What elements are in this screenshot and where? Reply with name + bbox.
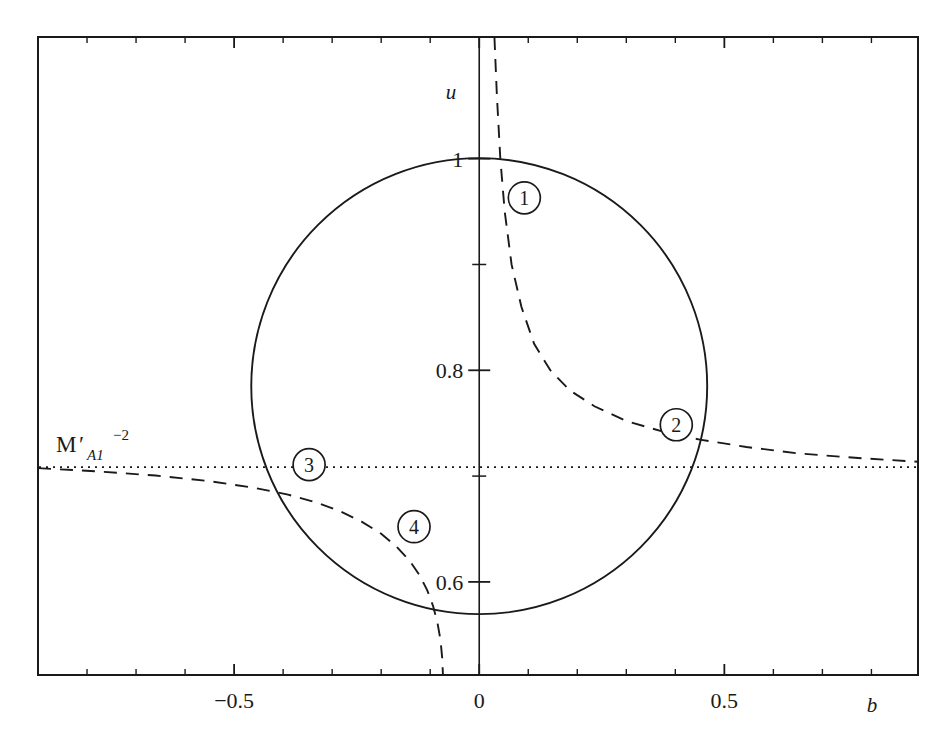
annotation-number: 3 bbox=[304, 454, 314, 476]
figure-container: −0.500.5 10.80.6 u b M ′ A1 −2 1234 bbox=[0, 0, 949, 741]
x-tick-label: −0.5 bbox=[214, 688, 254, 713]
y-axis-label: u bbox=[446, 80, 457, 104]
x-tick-label: 0 bbox=[474, 688, 485, 713]
annotation-marker-2: 2 bbox=[660, 409, 692, 441]
annotation-number: 1 bbox=[519, 187, 529, 209]
annotation-number: 2 bbox=[671, 414, 681, 436]
level-label-prime: ′ bbox=[79, 432, 84, 457]
annotation-marker-3: 3 bbox=[293, 449, 325, 481]
level-label-superscript: −2 bbox=[113, 427, 129, 443]
level-label-subscript: A1 bbox=[86, 447, 104, 463]
plot-canvas: −0.500.5 10.80.6 u b M ′ A1 −2 1234 bbox=[0, 0, 949, 741]
y-tick-label: 1 bbox=[452, 147, 463, 172]
y-tick-label: 0.6 bbox=[436, 570, 464, 595]
x-tick-label: 0.5 bbox=[711, 688, 739, 713]
annotation-marker-4: 4 bbox=[398, 511, 430, 543]
x-axis-label: b bbox=[867, 693, 878, 717]
y-tick-label: 0.8 bbox=[436, 358, 464, 383]
level-label-base: M bbox=[56, 432, 76, 457]
annotation-number: 4 bbox=[409, 516, 419, 538]
annotation-marker-1: 1 bbox=[508, 182, 540, 214]
